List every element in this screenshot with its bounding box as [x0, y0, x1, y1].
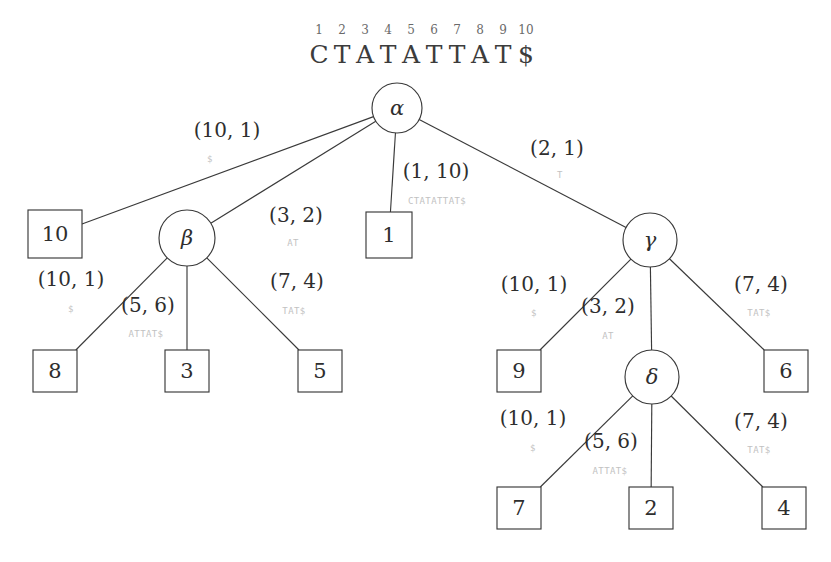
edge-pair-label: (10, 1): [501, 272, 568, 296]
edge-pair-label: (3, 2): [581, 294, 635, 318]
leaf-label: 7: [512, 496, 525, 520]
edge-substring-label: TAT$: [747, 445, 770, 455]
string-index-label: 8: [476, 23, 484, 37]
edge-pair-label: (7, 4): [734, 409, 788, 433]
string-character: A: [470, 40, 490, 69]
suffix-tree-svg: 10183596724 αβγδ (10, 1)$(3, 2)AT(1, 10)…: [0, 0, 831, 562]
edge-substring-label: TAT$: [282, 306, 305, 316]
edge-substring-label: AT: [602, 331, 614, 341]
edge-substring-label: ATTAT$: [129, 329, 164, 339]
leaf-label: 10: [42, 222, 69, 246]
edge-pair-label: (2, 1): [530, 136, 584, 160]
internal-node-label: δ: [646, 365, 659, 389]
suffix-tree-figure: 10183596724 αβγδ (10, 1)$(3, 2)AT(1, 10)…: [0, 0, 831, 562]
string-index-label: 5: [407, 23, 415, 37]
string-index-label: 7: [453, 23, 461, 37]
string-character: T: [449, 40, 466, 69]
edge-pair-label: (3, 2): [269, 203, 323, 227]
edge-substring-label: T: [557, 170, 563, 180]
string-character: A: [401, 40, 421, 69]
leaf-boxes-group: 10183596724: [28, 210, 808, 529]
string-character: $: [518, 40, 534, 69]
edge-pair-label: (10, 1): [500, 406, 567, 430]
edge-substring-label: $: [68, 304, 74, 314]
edge-pair-label: (5, 6): [121, 293, 175, 317]
edge-substring-label: $: [530, 443, 536, 453]
string-index-label: 3: [361, 23, 369, 37]
string-character: T: [426, 40, 443, 69]
edge-pair-label: (5, 6): [584, 429, 638, 453]
string-index-label: 1: [315, 23, 323, 37]
header-group: 12345678910CTATATTAT$: [309, 23, 534, 69]
string-index-label: 4: [384, 23, 392, 37]
edge-pair-label: (7, 4): [734, 272, 788, 296]
internal-node-label: γ: [644, 228, 657, 252]
edge-pair-label: (7, 4): [270, 269, 324, 293]
internal-node-label: β: [180, 226, 193, 250]
leaf-label: 6: [779, 359, 792, 383]
string-index-label: 2: [338, 23, 346, 37]
string-index-label: 10: [518, 23, 533, 37]
string-character: C: [309, 40, 328, 69]
edge-substring-label: $: [207, 154, 213, 164]
edge-substring-label: $: [531, 308, 537, 318]
edge-pair-label: (10, 1): [194, 118, 261, 142]
internal-node-label: α: [390, 96, 404, 120]
leaf-label: 2: [644, 496, 657, 520]
edge-substring-label: CTATATTAT$: [408, 196, 466, 206]
leaf-label: 4: [777, 496, 790, 520]
tree-edge: [390, 133, 395, 212]
leaf-label: 1: [382, 223, 395, 247]
leaf-label: 9: [512, 359, 525, 383]
edge-substring-label: ATTAT$: [593, 466, 628, 476]
tree-edge: [650, 267, 651, 350]
string-index-label: 9: [499, 23, 507, 37]
leaf-label: 5: [313, 359, 326, 383]
leaf-label: 8: [48, 359, 61, 383]
tree-edge: [651, 404, 652, 487]
string-character: A: [355, 40, 375, 69]
leaf-label: 3: [180, 359, 193, 383]
edge-substring-label: TAT$: [747, 308, 770, 318]
edge-labels-group: (10, 1)$(3, 2)AT(1, 10)CTATATTAT$(2, 1)T…: [38, 118, 788, 476]
string-character: T: [495, 40, 512, 69]
edge-pair-label: (1, 10): [403, 159, 470, 183]
string-index-label: 6: [430, 23, 438, 37]
string-character: T: [380, 40, 397, 69]
string-character: T: [334, 40, 351, 69]
edge-pair-label: (10, 1): [38, 267, 105, 291]
edge-substring-label: AT: [287, 238, 299, 248]
